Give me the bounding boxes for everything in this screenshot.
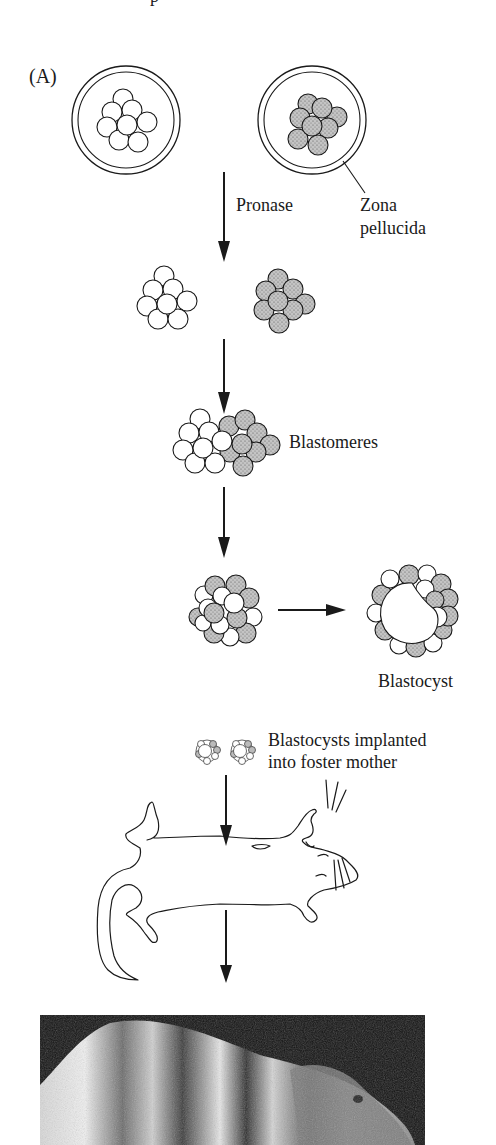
implant-label-line1: Blastocysts implanted: [268, 730, 426, 751]
embryo-white-free: [133, 262, 203, 334]
blastomeres-label: Blastomeres: [289, 432, 378, 453]
chimeric-mouse-photo: [40, 1015, 425, 1145]
chimeric-morula: [186, 573, 266, 649]
zona-label-line2: pellucida: [360, 218, 426, 239]
zona-label-line1: Zona: [360, 195, 397, 216]
embryo-stippled-free: [249, 265, 319, 335]
aggregated-blastomeres: [172, 408, 282, 482]
arrow-down-icon: [218, 241, 230, 262]
blastocyst-label: Blastocyst: [378, 671, 453, 692]
pronase-label: Pronase: [236, 195, 293, 216]
foster-mother-mouse: [80, 760, 400, 1020]
blastocyst: [360, 563, 460, 660]
